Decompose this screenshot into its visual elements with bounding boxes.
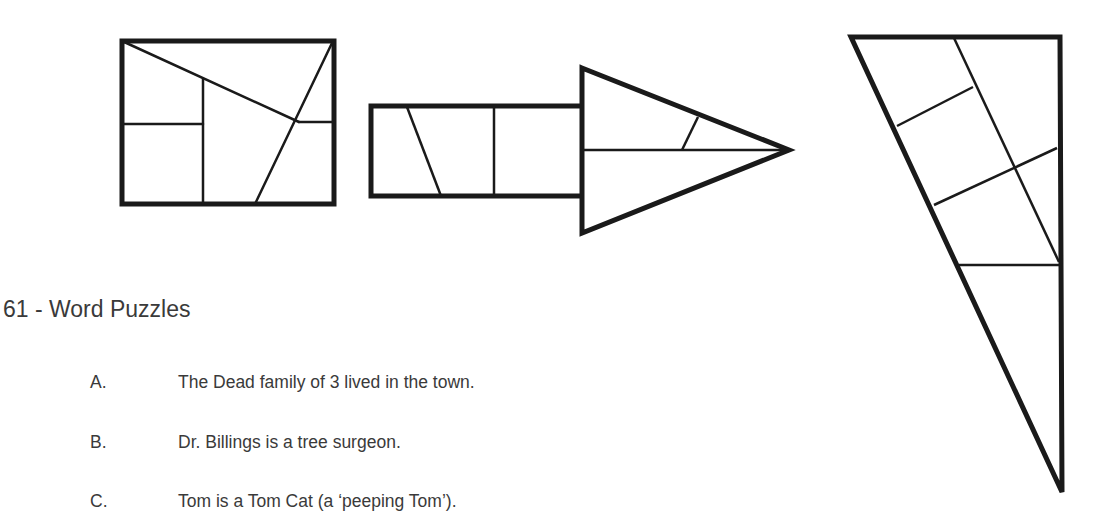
item-letter: C. [90, 491, 108, 512]
item-text: Dr. Billings is a tree surgeon. [178, 432, 401, 453]
arrow-dissection [371, 68, 789, 233]
item-text: The Dead family of 3 lived in the town. [178, 372, 475, 393]
section-heading: 61 - Word Puzzles [3, 296, 190, 323]
triangle-dissection [851, 37, 1062, 492]
item-letter: A. [90, 372, 107, 393]
item-text: Tom is a Tom Cat (a ‘peeping Tom’). [178, 491, 457, 512]
puzzle-figures [0, 0, 1103, 515]
item-letter: B. [90, 432, 107, 453]
rectangle-dissection [122, 41, 334, 204]
